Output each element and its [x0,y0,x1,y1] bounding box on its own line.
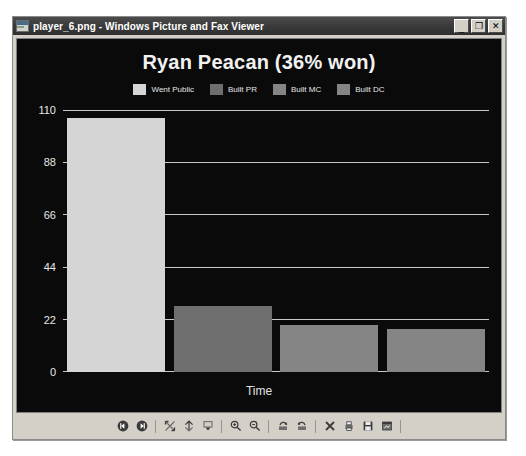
viewer-body: Ryan Peacan (36% won) Went PublicBuilt P… [13,35,505,413]
bar-chart: Ryan Peacan (36% won) Went PublicBuilt P… [17,39,501,412]
toolbar-separator [221,420,222,433]
next-image-button[interactable] [133,418,150,435]
legend-item: Built PR [210,84,257,95]
legend-swatch [133,84,146,95]
chart-legend: Went PublicBuilt PRBuilt MCBuilt DC [17,84,501,95]
zoom-in-icon [229,419,243,433]
toolbar-separator [400,420,401,433]
title-bar[interactable]: player_6.png - Windows Picture and Fax V… [13,17,505,35]
start-slideshow-button[interactable] [199,418,216,435]
legend-swatch [273,84,286,95]
y-axis-tick-label: 44 [44,261,56,273]
bar-slot [170,111,277,372]
bar [67,118,165,372]
save-icon [361,419,375,433]
next-image-icon [135,419,149,433]
previous-image-icon [116,419,130,433]
print-button[interactable] [340,418,357,435]
x-axis-label: Time [17,384,501,398]
toolbar-separator [155,420,156,433]
image-file-icon [16,20,29,32]
toolbar-separator [315,420,316,433]
bar-group [63,111,489,372]
delete-button[interactable] [321,418,338,435]
legend-label: Built DC [355,85,384,94]
minimize-icon: _ [459,23,464,32]
viewer-toolbar [13,413,505,439]
bar [280,325,378,372]
rotate-counterclockwise-icon [295,419,309,433]
picture-viewer-window: player_6.png - Windows Picture and Fax V… [12,16,506,440]
edit-image-icon [380,419,394,433]
window-controls: _ ❐ ✕ [454,19,503,33]
bar [174,306,272,372]
image-pane[interactable]: Ryan Peacan (36% won) Went PublicBuilt P… [16,38,502,413]
legend-swatch [337,84,350,95]
maximize-icon: ❐ [475,22,483,31]
save-as-button[interactable] [359,418,376,435]
bar-slot [383,111,490,372]
slideshow-icon [201,419,215,433]
rotate-counterclockwise-button[interactable] [293,418,310,435]
print-icon [342,419,356,433]
window-title: player_6.png - Windows Picture and Fax V… [33,21,454,32]
chart-title: Ryan Peacan (36% won) [17,51,501,74]
actual-size-icon [182,419,196,433]
close-button[interactable]: ✕ [488,19,503,33]
bar [387,329,485,372]
zoom-out-button[interactable] [246,418,263,435]
bar-slot [63,111,170,372]
actual-size-button[interactable] [180,418,197,435]
toolbar-separator [268,420,269,433]
y-axis-tick-label: 22 [44,314,56,326]
y-axis-tick-label: 110 [38,104,56,116]
close-and-edit-button[interactable] [378,418,395,435]
maximize-button[interactable]: ❐ [471,19,486,33]
legend-item: Went Public [133,84,194,95]
legend-swatch [210,84,223,95]
best-fit-icon [163,419,177,433]
y-axis-tick-label: 0 [50,366,56,378]
y-axis-tick-label: 88 [44,156,56,168]
plot-area: 022446688110 [63,111,489,372]
delete-icon [323,419,337,433]
legend-label: Built PR [228,85,257,94]
rotate-clockwise-icon [276,419,290,433]
legend-label: Built MC [291,85,321,94]
close-icon: ✕ [492,22,500,31]
legend-item: Built MC [273,84,321,95]
minimize-button[interactable]: _ [454,19,469,33]
best-fit-button[interactable] [161,418,178,435]
rotate-clockwise-button[interactable] [274,418,291,435]
bar-slot [276,111,383,372]
y-axis-tick-label: 66 [44,209,56,221]
legend-label: Went Public [151,85,194,94]
zoom-in-button[interactable] [227,418,244,435]
zoom-out-icon [248,419,262,433]
legend-item: Built DC [337,84,384,95]
previous-image-button[interactable] [114,418,131,435]
